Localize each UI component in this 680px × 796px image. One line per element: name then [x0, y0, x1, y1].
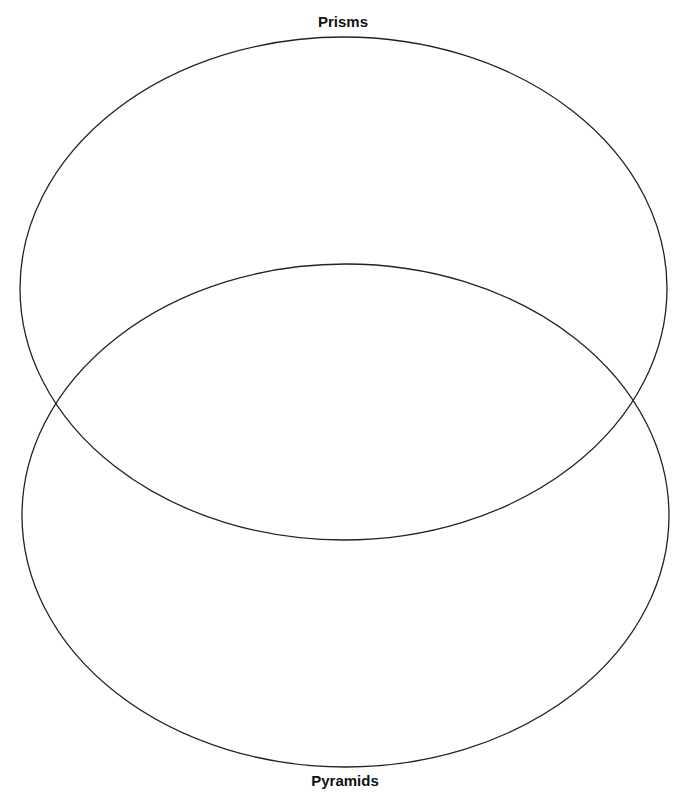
venn-diagram — [0, 0, 680, 796]
prisms-label: Prisms — [243, 13, 443, 31]
prisms-ellipse — [20, 37, 667, 540]
pyramids-label: Pyramids — [245, 772, 445, 790]
pyramids-ellipse — [22, 264, 669, 767]
